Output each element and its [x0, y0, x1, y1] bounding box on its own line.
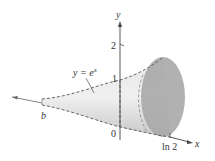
b-label: b [41, 110, 46, 121]
y-tick-label-1: 1 [112, 73, 117, 84]
x-axis-label: x [194, 138, 200, 149]
y-tick-2 [120, 44, 124, 46]
y-axis-label: y [115, 9, 121, 20]
x-axis-left-arrow-icon [12, 96, 18, 100]
end-cap [141, 57, 185, 137]
ln2-label: ln 2 [162, 141, 177, 152]
solid-of-revolution-diagram: y 2 1 0 b ln 2 x y = ex [0, 0, 215, 161]
curve-label: y = ex [72, 66, 98, 78]
y-tick-label-2: 2 [111, 40, 116, 51]
x-axis-arrow-icon [187, 140, 193, 144]
y-axis-arrow-icon [118, 21, 122, 27]
origin-label: 0 [111, 128, 116, 139]
